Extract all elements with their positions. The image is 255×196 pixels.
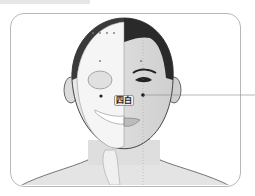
- skull-point-marker: [99, 94, 102, 97]
- acupoint-label: 四白: [114, 95, 134, 106]
- eye-socket: [88, 71, 112, 89]
